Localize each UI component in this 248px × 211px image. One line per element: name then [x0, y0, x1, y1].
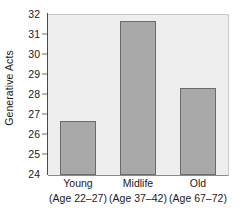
y-axis-tick-label: 27	[28, 109, 40, 120]
y-axis-tick-labels: 242526272829303132	[18, 14, 42, 174]
bar-midlife	[120, 21, 156, 175]
y-axis-tick-label: 31	[28, 29, 40, 40]
x-axis-category-labels: Young(Age 22–27)Midlife(Age 37–42)Old(Ag…	[48, 176, 228, 210]
x-axis-category-name: Young	[48, 176, 108, 191]
x-axis-category-range: (Age 37–42)	[108, 191, 168, 206]
y-axis-title: Generative Acts	[0, 0, 18, 175]
y-axis-tick-label: 24	[28, 169, 40, 180]
y-axis-tick-label: 32	[28, 9, 40, 20]
y-axis-tick-label: 29	[28, 69, 40, 80]
plot-area	[48, 14, 229, 176]
x-axis-category-range: (Age 22–27)	[48, 191, 108, 206]
generative-acts-bar-chart: Generative Acts 242526272829303132 Young…	[0, 0, 248, 211]
x-axis-category-name: Old	[168, 176, 228, 191]
x-axis-label-group: Old(Age 67–72)	[168, 176, 228, 206]
x-axis-category-range: (Age 67–72)	[168, 191, 228, 206]
y-axis-tick-label: 30	[28, 49, 40, 60]
bars-layer	[48, 15, 228, 175]
bar-old	[180, 88, 216, 175]
y-axis-tick-label: 28	[28, 89, 40, 100]
x-axis-category-name: Midlife	[108, 176, 168, 191]
y-axis-title-text: Generative Acts	[3, 50, 15, 126]
bar-young	[60, 121, 96, 175]
y-axis-tick-label: 25	[28, 149, 40, 160]
y-axis-tick-label: 26	[28, 129, 40, 140]
x-axis-label-group: Midlife(Age 37–42)	[108, 176, 168, 206]
x-axis-label-group: Young(Age 22–27)	[48, 176, 108, 206]
